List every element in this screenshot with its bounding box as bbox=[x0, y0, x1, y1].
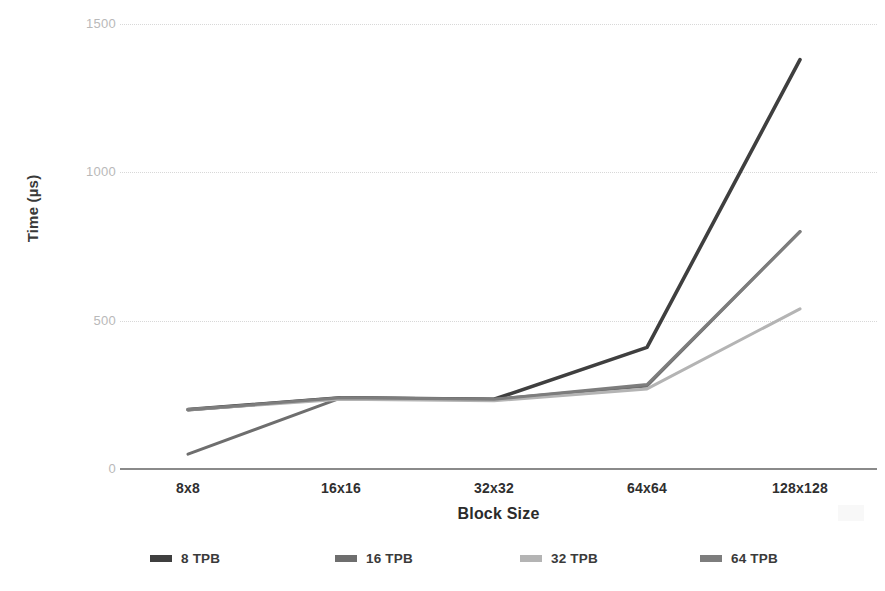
legend-swatch-icon bbox=[520, 555, 542, 562]
x-tick-label-16x16: 16x16 bbox=[281, 480, 401, 496]
legend-item-8-tpb[interactable]: 8 TPB bbox=[150, 548, 220, 568]
legend-label: 64 TPB bbox=[731, 551, 778, 566]
chart-legend: 8 TPB16 TPB32 TPB64 TPB bbox=[120, 548, 840, 574]
series-line-16-tpb bbox=[188, 232, 800, 454]
y-tick-label-0: 0 bbox=[62, 461, 116, 476]
y-tick-label-1000: 1000 bbox=[62, 164, 116, 179]
legend-label: 32 TPB bbox=[551, 551, 598, 566]
x-tick-label-128x128: 128x128 bbox=[740, 480, 860, 496]
legend-label: 8 TPB bbox=[181, 551, 220, 566]
legend-item-64-tpb[interactable]: 64 TPB bbox=[700, 548, 778, 568]
legend-swatch-icon bbox=[150, 555, 172, 562]
line-chart: Time (µs) 150010005000 8x816x1632x3264x6… bbox=[0, 0, 885, 591]
x-axis-title: Block Size bbox=[120, 505, 877, 523]
series-lines bbox=[120, 24, 877, 469]
legend-label: 16 TPB bbox=[366, 551, 413, 566]
y-axis-title: Time (µs) bbox=[24, 149, 41, 269]
legend-swatch-icon bbox=[335, 555, 357, 562]
legend-item-32-tpb[interactable]: 32 TPB bbox=[520, 548, 598, 568]
y-axis-tick-labels: 150010005000 bbox=[58, 0, 116, 591]
x-axis-line bbox=[120, 468, 877, 470]
x-axis-tick-labels: 8x816x1632x3264x64128x128 bbox=[120, 480, 877, 504]
y-tick-label-1500: 1500 bbox=[62, 16, 116, 31]
legend-swatch-icon bbox=[700, 555, 722, 562]
series-line-64-tpb bbox=[188, 232, 800, 410]
x-tick-label-8x8: 8x8 bbox=[128, 480, 248, 496]
legend-item-16-tpb[interactable]: 16 TPB bbox=[335, 548, 413, 568]
plot-area bbox=[120, 24, 877, 469]
y-tick-label-500: 500 bbox=[62, 313, 116, 328]
x-tick-label-32x32: 32x32 bbox=[434, 480, 554, 496]
x-tick-label-64x64: 64x64 bbox=[587, 480, 707, 496]
